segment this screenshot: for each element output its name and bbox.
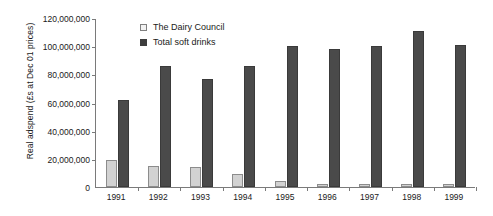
- bar-1993-total-soft-drinks: [202, 79, 213, 187]
- x-tick-mark: [307, 187, 308, 191]
- bar-1999-total-soft-drinks: [455, 45, 466, 187]
- y-axis-tick-labels: 020,000,00040,000,00060,000,00080,000,00…: [24, 0, 90, 216]
- x-tick-label: 1997: [360, 192, 379, 202]
- bar-group: [401, 19, 424, 187]
- bar-1998-dairy-council: [401, 184, 412, 187]
- bar-1992-dairy-council: [148, 166, 159, 187]
- x-tick-label: 1993: [191, 192, 210, 202]
- y-tick-mark: [92, 19, 96, 20]
- y-tick-label: 40,000,000: [47, 127, 90, 137]
- bar-1991-total-soft-drinks: [118, 100, 129, 187]
- y-tick-label: 120,000,000: [43, 14, 90, 24]
- y-tick-label: 0: [85, 183, 90, 193]
- y-tick-mark: [92, 104, 96, 105]
- x-tick-mark: [223, 187, 224, 191]
- y-tick-label: 80,000,000: [47, 70, 90, 80]
- bar-1997-total-soft-drinks: [371, 46, 382, 187]
- bar-1995-total-soft-drinks: [287, 46, 298, 187]
- y-tick-mark: [92, 160, 96, 161]
- y-tick-label: 20,000,000: [47, 155, 90, 165]
- bar-1997-dairy-council: [359, 184, 370, 187]
- legend-item-dairy-council: The Dairy Council: [140, 22, 225, 32]
- y-tick-label: 100,000,000: [43, 42, 90, 52]
- x-tick-mark: [265, 187, 266, 191]
- bar-1995-dairy-council: [275, 181, 286, 187]
- x-axis-tick-labels: 199119921993199419951996199719981999: [95, 192, 475, 210]
- legend-label: The Dairy Council: [153, 22, 225, 32]
- legend-swatch-icon-total-soft-drinks: [140, 39, 147, 46]
- x-tick-mark: [180, 187, 181, 191]
- bar-group: [443, 19, 466, 187]
- x-tick-mark: [392, 187, 393, 191]
- bar-group: [359, 19, 382, 187]
- bar-1996-total-soft-drinks: [329, 49, 340, 187]
- x-tick-mark: [349, 187, 350, 191]
- bar-1994-total-soft-drinks: [244, 66, 255, 187]
- bar-chart: Real adspend (£s at Dec 01 prices) 020,0…: [0, 0, 493, 216]
- bar-1996-dairy-council: [317, 184, 328, 187]
- bar-1993-dairy-council: [190, 167, 201, 187]
- x-tick-label: 1999: [444, 192, 463, 202]
- bar-1991-dairy-council: [106, 160, 117, 187]
- bar-group: [317, 19, 340, 187]
- x-tick-label: 1998: [402, 192, 421, 202]
- bar-1999-dairy-council: [443, 184, 454, 187]
- bar-group: [232, 19, 255, 187]
- y-tick-label: 60,000,000: [47, 99, 90, 109]
- y-tick-mark: [92, 75, 96, 76]
- bar-1994-dairy-council: [232, 174, 243, 187]
- x-tick-mark: [138, 187, 139, 191]
- x-tick-label: 1992: [149, 192, 168, 202]
- bar-1992-total-soft-drinks: [160, 66, 171, 187]
- x-tick-label: 1995: [276, 192, 295, 202]
- x-tick-label: 1994: [233, 192, 252, 202]
- legend-label: Total soft drinks: [153, 37, 216, 47]
- x-tick-mark: [476, 187, 477, 191]
- x-tick-label: 1996: [318, 192, 337, 202]
- chart-legend: The Dairy Council Total soft drinks: [140, 22, 225, 52]
- x-tick-mark: [434, 187, 435, 191]
- y-tick-mark: [92, 47, 96, 48]
- bar-group: [106, 19, 129, 187]
- legend-item-total-soft-drinks: Total soft drinks: [140, 37, 225, 47]
- bar-group: [275, 19, 298, 187]
- bar-1998-total-soft-drinks: [413, 31, 424, 187]
- y-tick-mark: [92, 132, 96, 133]
- legend-swatch-icon-dairy-council: [140, 24, 147, 31]
- x-tick-label: 1991: [107, 192, 126, 202]
